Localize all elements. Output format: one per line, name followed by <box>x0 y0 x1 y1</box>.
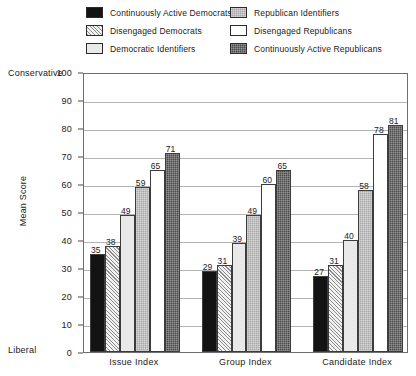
bar-value-label: 78 <box>374 125 384 135</box>
bar-value-label: 60 <box>262 175 272 185</box>
bar[interactable] <box>276 170 291 352</box>
bar[interactable] <box>328 265 343 352</box>
bar[interactable] <box>135 187 150 352</box>
plot-area: 353849596571293139496065273140587881 <box>83 73 408 353</box>
y-axis-tick-label: 70 <box>62 152 72 162</box>
bar-value-label: 71 <box>166 144 176 154</box>
legend-swatch-icon <box>86 7 103 18</box>
y-axis-tick-label: 90 <box>62 96 72 106</box>
bar[interactable] <box>246 215 261 352</box>
y-axis-tick-label: 20 <box>62 292 72 302</box>
bar[interactable] <box>358 190 373 352</box>
y-axis-ticks: 0102030405060708090100 <box>0 73 78 353</box>
legend-item-label: Continuously Active Democrats <box>110 8 232 18</box>
bar-value-label: 39 <box>233 234 243 244</box>
bar-value-label: 40 <box>344 231 354 241</box>
y-axis-tick-label: 80 <box>62 124 72 134</box>
bar-value-label: 29 <box>203 262 213 272</box>
bar-value-label: 27 <box>314 267 324 277</box>
bar[interactable] <box>232 243 247 352</box>
bar-value-label: 65 <box>151 161 161 171</box>
y-axis-tick-label: 40 <box>62 236 72 246</box>
bar[interactable] <box>343 240 358 352</box>
legend-item[interactable]: Republican Identifiers <box>230 4 382 21</box>
x-axis-category-label: Candidate Index <box>322 357 392 367</box>
bar[interactable] <box>373 134 388 352</box>
legend-item[interactable]: Continuously Active Democrats <box>86 4 232 21</box>
legend-item[interactable]: Continuously Active Republicans <box>230 40 382 57</box>
legend-item[interactable]: Disengaged Democrats <box>86 22 232 39</box>
y-axis-tick-label: 50 <box>62 208 72 218</box>
legend-swatch-icon <box>86 25 103 36</box>
bar-group: 293139496065 <box>202 74 292 352</box>
legend-item-label: Democratic Identifiers <box>110 44 196 54</box>
chart-legend: Continuously Active DemocratsDisengaged … <box>86 4 408 60</box>
bar-value-label: 35 <box>91 245 101 255</box>
bar-value-label: 31 <box>218 256 228 266</box>
legend-column-1: Republican IdentifiersDisengaged Republi… <box>230 4 382 58</box>
legend-column-0: Continuously Active DemocratsDisengaged … <box>86 4 232 58</box>
legend-swatch-icon <box>230 7 247 18</box>
bar[interactable] <box>165 153 180 352</box>
x-axis-category-label: Issue Index <box>109 357 158 367</box>
bar-value-label: 49 <box>247 206 257 216</box>
legend-swatch-icon <box>230 43 247 54</box>
y-axis-title: Mean Score <box>18 161 28 241</box>
legend-item[interactable]: Disengaged Republicans <box>230 22 382 39</box>
bar[interactable] <box>105 246 120 352</box>
y-axis-tick-label: 100 <box>56 68 72 78</box>
bar-value-label: 59 <box>136 178 146 188</box>
bar[interactable] <box>150 170 165 352</box>
y-axis-tick-label: 10 <box>62 320 72 330</box>
bar[interactable] <box>261 184 276 352</box>
legend-item-label: Republican Identifiers <box>254 8 339 18</box>
bar-value-label: 38 <box>106 237 116 247</box>
bar[interactable] <box>388 125 403 352</box>
bar[interactable] <box>217 265 232 352</box>
y-axis-tick-label: 30 <box>62 264 72 274</box>
legend-item-label: Disengaged Democrats <box>110 26 202 36</box>
bar-group: 273140587881 <box>313 74 403 352</box>
y-axis-tick-label: 0 <box>67 348 72 358</box>
bar[interactable] <box>202 271 217 352</box>
legend-item-label: Continuously Active Republicans <box>254 44 382 54</box>
legend-swatch-icon <box>230 25 247 36</box>
legend-item[interactable]: Democratic Identifiers <box>86 40 232 57</box>
bar-value-label: 31 <box>329 256 339 266</box>
bar-group: 353849596571 <box>90 74 180 352</box>
legend-swatch-icon <box>86 43 103 54</box>
y-axis-tick-label: 60 <box>62 180 72 190</box>
bar[interactable] <box>313 276 328 352</box>
bar-value-label: 65 <box>277 161 287 171</box>
bar[interactable] <box>120 215 135 352</box>
x-axis-category-label: Group Index <box>219 357 272 367</box>
x-axis-labels: Issue IndexGroup IndexCandidate Index <box>83 357 408 373</box>
bar-value-label: 49 <box>121 206 131 216</box>
bar[interactable] <box>90 254 105 352</box>
bar-value-label: 81 <box>389 116 399 126</box>
legend-item-label: Disengaged Republicans <box>254 26 352 36</box>
bar-value-label: 58 <box>359 181 369 191</box>
